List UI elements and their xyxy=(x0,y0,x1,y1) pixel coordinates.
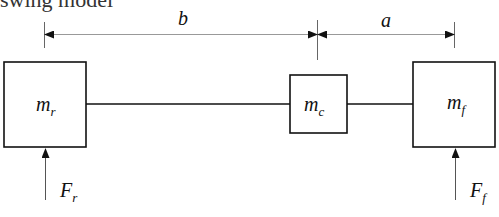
dimension-label-a: a xyxy=(381,10,391,30)
mass-symbol: m xyxy=(447,91,461,113)
mass-subscript: f xyxy=(461,102,465,117)
force-symbol: F xyxy=(470,179,482,201)
mass-symbol: m xyxy=(304,93,318,115)
force-symbol: F xyxy=(60,179,72,201)
mass-subscript: c xyxy=(318,104,324,119)
force-subscript: r xyxy=(72,190,77,205)
mass-label-front: mf xyxy=(447,92,465,116)
dimension-label-b: b xyxy=(178,8,188,28)
mass-label-rear: mr xyxy=(36,94,56,118)
mass-subscript: r xyxy=(50,104,55,119)
force-label-front: Ff xyxy=(470,180,486,204)
mass-symbol: m xyxy=(36,93,50,115)
force-label-rear: Fr xyxy=(60,180,77,204)
force-subscript: f xyxy=(482,190,486,205)
mass-label-center: mc xyxy=(304,94,324,118)
